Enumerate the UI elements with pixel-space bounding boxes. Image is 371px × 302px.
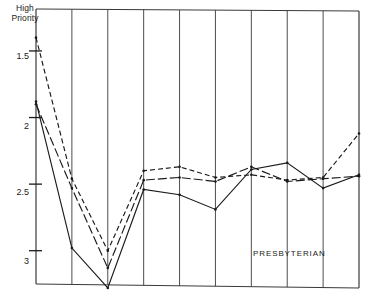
plot-frame	[36, 9, 359, 288]
y-tick-label-3: 3	[5, 256, 29, 266]
annotation-presbyterian: PRESBYTERIAN	[253, 249, 326, 258]
grid-lines	[72, 9, 323, 287]
y-tick-label-1.5: 1.5	[5, 51, 29, 61]
y-tick-label-2: 2	[5, 121, 29, 131]
y-tick-label-2.5: 2.5	[5, 187, 29, 197]
line-chart: High Priority 1.5 2 2.5 3 PRESBYTERIAN	[0, 0, 371, 302]
y-axis-title-line-2: Priority	[2, 13, 48, 23]
y-axis-title-line-1: High	[2, 3, 48, 13]
y-axis-title: High Priority	[2, 3, 48, 23]
